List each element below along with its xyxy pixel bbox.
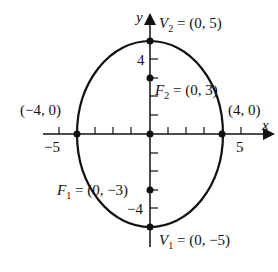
y-tick-label-neg4: −4 xyxy=(127,201,143,217)
y-axis-label: y xyxy=(134,9,143,25)
x-tick-label-neg5: −5 xyxy=(44,139,60,155)
f1-label: F1 = (0, −3) xyxy=(56,182,128,201)
right-covertex-dot xyxy=(219,131,226,138)
left-covertex-label: (−4, 0) xyxy=(20,102,61,119)
focus-f2-dot xyxy=(147,75,154,82)
ellipse-diagram: y x −5 5 4 −4 V2 = (0, 5) F2 = (0, 3) (−… xyxy=(0,0,278,272)
focus-f1-dot xyxy=(147,187,154,194)
vertex-v1-dot xyxy=(147,224,154,231)
x-tick-label-5: 5 xyxy=(236,139,244,155)
x-axis-label: x xyxy=(261,117,269,133)
v2-label: V2 = (0, 5) xyxy=(159,15,222,34)
v1-label: V1 = (0, −5) xyxy=(159,232,230,251)
vertex-v2-dot xyxy=(147,38,154,45)
left-covertex-dot xyxy=(74,131,81,138)
f2-label: F2 = (0, 3) xyxy=(154,82,218,101)
origin-dot xyxy=(147,131,154,138)
right-covertex-label: (4, 0) xyxy=(228,102,261,119)
y-tick-label-4: 4 xyxy=(137,52,145,68)
